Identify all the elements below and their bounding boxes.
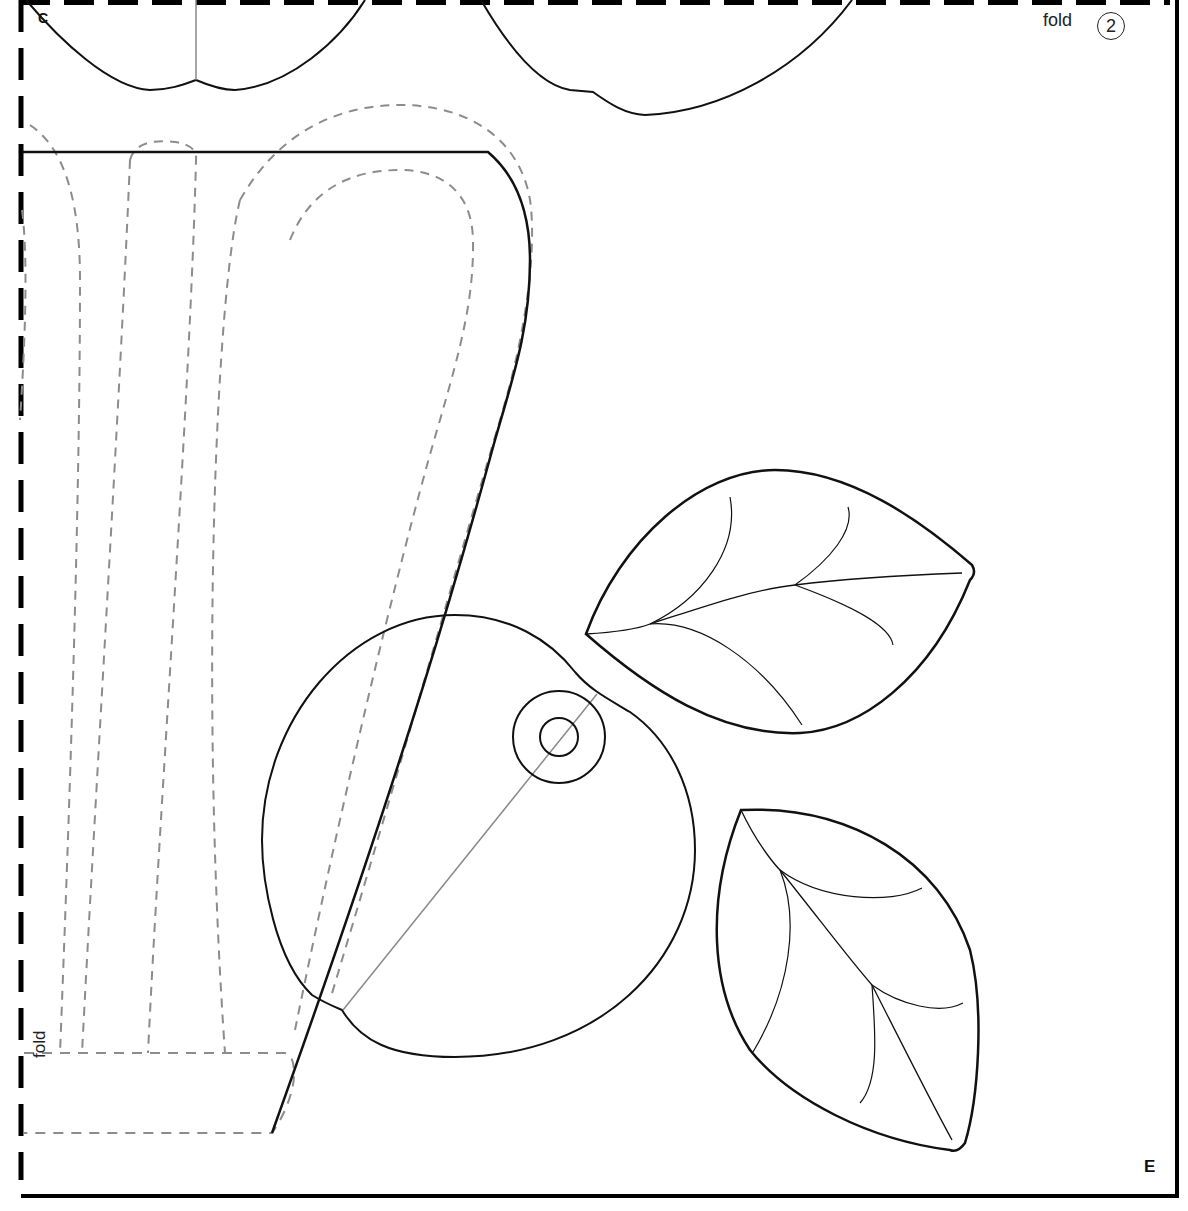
stitch-guide-1 [30, 125, 80, 1053]
leaf-vein [795, 507, 849, 585]
leaf-vein [795, 585, 893, 645]
leaf-vein [650, 624, 802, 725]
fruit-diagonal-guide [343, 694, 597, 1010]
button-marker-inner [540, 718, 578, 756]
stitch-guide-7 [290, 170, 473, 1030]
round-fruit [262, 615, 695, 1057]
leaf-vein [650, 497, 732, 624]
leaf-vein [753, 870, 790, 1052]
upper-leaf [586, 470, 974, 733]
fold-label-side: fold [30, 1031, 50, 1058]
vase-body [22, 152, 530, 1133]
leaf-vein [780, 870, 922, 898]
top-center-petal [481, 0, 852, 115]
pattern-sheet [0, 0, 1188, 1211]
fold-flap [24, 1053, 294, 1133]
stitch-guide-6 [212, 200, 240, 1053]
fold-flap-outline [24, 1053, 294, 1133]
leaf-outline [586, 470, 974, 733]
petal-outline [481, 0, 852, 115]
leaf-midrib [741, 810, 952, 1140]
lower-leaf [717, 810, 979, 1151]
fruit-outline [262, 615, 695, 1057]
leaf-vein [860, 985, 875, 1103]
leaf-midrib [586, 573, 962, 634]
button-marker-outer [513, 691, 605, 783]
fold-label-top: fold [1043, 10, 1072, 31]
stitch-guide-4 [82, 160, 130, 1053]
corner-label-c: C [38, 10, 48, 26]
leaf-vein [872, 985, 963, 1008]
top-left-petal [26, 0, 365, 90]
stitch-guide-3 [130, 141, 196, 1053]
corner-label-e: E [1144, 1157, 1155, 1177]
stitch-guide-5 [240, 105, 532, 1000]
vase-outline [22, 152, 530, 1133]
piece-number-badge: 2 [1097, 12, 1125, 40]
leaf-outline [717, 810, 979, 1151]
